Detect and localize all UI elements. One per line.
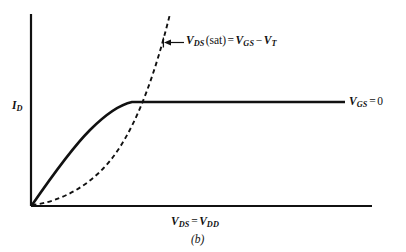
y-axis-label: ID — [12, 100, 23, 113]
figure-container: ID VGS=0 VDS(sat)=VGS−VT VDS=VDD (b) — [0, 0, 406, 252]
annotation-arrowhead-icon — [164, 40, 171, 46]
figure-caption: (b) — [191, 234, 204, 246]
x-axis-label: VDS=VDD — [171, 216, 219, 229]
drain-current-solid-curve — [32, 102, 345, 205]
saturation-annotation-label: VDS(sat)=VGS−VT — [186, 35, 277, 48]
vgs-curve-label: VGS=0 — [349, 96, 383, 109]
